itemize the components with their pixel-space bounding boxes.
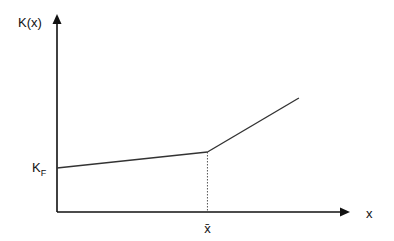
intercept-label: KF [32, 160, 47, 178]
intercept-label-main: K [32, 160, 41, 175]
y-axis-label: K(x) [18, 15, 42, 30]
x-axis-label: x [366, 206, 373, 221]
series-segment-1 [57, 152, 207, 168]
series-segment-2 [207, 98, 298, 152]
cost-function-diagram: K(x) x KF x̄ [0, 0, 394, 241]
kink-x-bar-label: x̄ [204, 221, 211, 236]
y-axis-arrowhead [53, 14, 62, 24]
x-axis-arrowhead [340, 208, 350, 217]
series-k-of-x [57, 98, 299, 168]
intercept-label-subscript: F [41, 168, 47, 178]
diagram-canvas: K(x) x KF x̄ [0, 0, 394, 241]
